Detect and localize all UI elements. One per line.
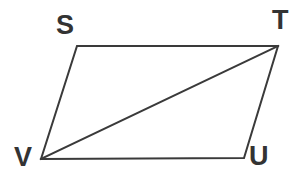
vertex-label-v: V (14, 144, 32, 171)
vertex-label-t: T (272, 7, 289, 34)
geometry-figure: S T U V (0, 0, 304, 182)
vertex-label-s: S (56, 12, 74, 39)
vertex-label-u: U (249, 143, 269, 170)
diagonal-vt (41, 46, 278, 159)
